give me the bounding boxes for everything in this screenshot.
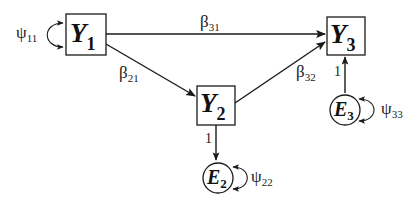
variance-loop-y1 xyxy=(47,23,63,47)
label-b31: β31 xyxy=(200,12,220,33)
node-e2-label: E xyxy=(206,166,220,188)
node-e3-subscript: 3 xyxy=(347,108,354,123)
node-y2-subscript: 2 xyxy=(217,104,226,124)
node-e3-label: E xyxy=(333,98,347,120)
node-y2: Y2 xyxy=(197,86,235,125)
variance-loop-e2 xyxy=(233,167,247,189)
label-fixed-e3: 1 xyxy=(334,64,341,79)
node-y1-subscript: 1 xyxy=(87,34,96,54)
variance-loop-e3 xyxy=(359,99,374,121)
label-psi22: ψ22 xyxy=(251,167,273,188)
node-e3: E3 xyxy=(330,95,360,125)
label-b21: β21 xyxy=(119,63,139,84)
node-y3: Y3 xyxy=(327,17,365,55)
node-e2: E2 xyxy=(203,163,233,193)
label-psi33: ψ33 xyxy=(381,99,403,120)
node-y1: Y1 xyxy=(66,14,106,55)
label-b32: β32 xyxy=(296,62,316,83)
path-diagram: Y1 Y3 Y2 E2 E3 β31 β21 β32 1 1 ψ11 ψ22 ψ… xyxy=(0,0,420,206)
label-fixed-e2: 1 xyxy=(205,131,212,146)
node-e2-subscript: 2 xyxy=(220,176,227,191)
node-y3-subscript: 3 xyxy=(347,35,356,55)
label-psi11: ψ11 xyxy=(16,23,37,44)
